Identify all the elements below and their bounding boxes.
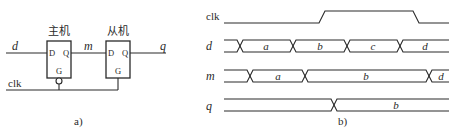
caption-a: a) — [74, 115, 83, 128]
caption-b: b) — [338, 115, 348, 128]
label-q: q — [160, 39, 166, 53]
row-label-m: m — [206, 69, 215, 83]
slave-pin-g: G — [115, 66, 121, 76]
slave-pin-d: D — [108, 48, 114, 58]
master-pin-g: G — [56, 66, 62, 76]
label-m: m — [84, 39, 93, 53]
slave-pin-q: Q — [122, 48, 128, 58]
row-label-clk: clk — [206, 10, 220, 22]
waveform-q — [224, 99, 449, 111]
timing-diagram: clk d m q a b c d a b d b b) — [206, 10, 449, 128]
d-seg-d: d — [422, 40, 428, 52]
label-d: d — [12, 39, 19, 53]
q-seg-b: b — [393, 99, 399, 111]
m-seg-b: b — [363, 70, 369, 82]
waveform-m — [224, 70, 449, 82]
master-pin-d: D — [49, 48, 55, 58]
master-title: 主机 — [48, 24, 70, 37]
row-label-d: d — [206, 39, 213, 53]
master-pin-q: Q — [63, 48, 69, 58]
inversion-bubble-icon — [56, 78, 62, 84]
row-label-q: q — [206, 99, 212, 113]
schematic: d 主机 D Q G m 从机 D Q G q clk a) — [6, 24, 166, 128]
master-slave-latch-diagram: d 主机 D Q G m 从机 D Q G q clk a) clk d m q — [0, 0, 457, 135]
m-seg-d: d — [438, 70, 444, 82]
m-seg-a: a — [275, 70, 281, 82]
waveform-d — [224, 40, 449, 52]
waveform-clk — [224, 11, 449, 23]
d-seg-b: b — [317, 40, 323, 52]
d-seg-a: a — [263, 40, 269, 52]
label-clk: clk — [8, 77, 22, 89]
slave-title: 从机 — [107, 24, 129, 37]
d-seg-c: c — [371, 40, 376, 52]
